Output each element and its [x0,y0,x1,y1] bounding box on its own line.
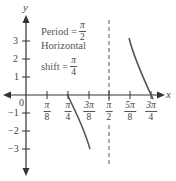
y-axis-down-arrow-icon [23,168,30,176]
y-tick-label-neg2: −2 [8,126,19,136]
curve-branch-2 [129,38,153,99]
x-tick-label-3pi-8: 3π 8 [83,101,95,122]
x-tick-label-pi-2: π 2 [106,101,113,122]
x-tick-label-3pi-4: 3π 4 [145,101,157,122]
y-tick-label-1: 1 [14,72,19,82]
period-annotation: Period = π 2 [41,21,86,42]
y-tick-label-3: 3 [13,36,18,46]
y-tick-label-2: 2 [13,54,18,64]
x-axis-right-arrow-icon [157,92,165,99]
shift-annotation: shift = π 4 [41,56,77,77]
horizontal-annotation: Horizontal [41,40,86,51]
origin-label: 0 [19,98,24,108]
y-axis-up-arrow-icon [23,15,30,23]
graph-canvas [0,0,176,181]
x-tick-label-pi-8: π 8 [44,101,51,122]
x-axis-label: x [166,88,171,100]
x-tick-label-5pi-8: 5π 8 [124,101,136,122]
y-axis-label: y [23,1,28,13]
x-axis-left-arrow-icon [3,92,11,99]
period-fraction: π 2 [79,21,86,42]
shift-fraction: π 4 [70,56,77,77]
x-tick-label-pi-4: π 4 [65,101,72,122]
y-tick-label-neg1: −1 [8,108,19,118]
y-tick-label-neg3: −3 [8,144,19,154]
